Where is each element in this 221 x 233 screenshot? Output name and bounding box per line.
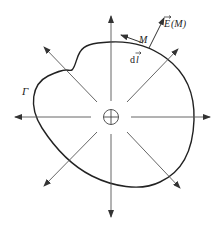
contour-gamma — [33, 42, 194, 187]
field-lines — [15, 16, 210, 217]
line-element-label: d l — [130, 52, 141, 66]
svg-text:E: E — [163, 18, 170, 29]
contour-label: Γ — [21, 85, 29, 97]
field-line-sw — [44, 132, 97, 186]
field-line-se — [127, 132, 180, 188]
svg-text:l: l — [136, 54, 139, 65]
field-vector-arrow — [149, 18, 164, 48]
svg-text:d: d — [130, 54, 135, 65]
field-diagram: Γ M E (M) d l — [0, 0, 221, 233]
positive-charge-icon — [104, 110, 119, 125]
field-label: E (M) — [163, 16, 187, 31]
point-label: M — [138, 34, 148, 45]
svg-text:(M): (M) — [171, 18, 187, 30]
